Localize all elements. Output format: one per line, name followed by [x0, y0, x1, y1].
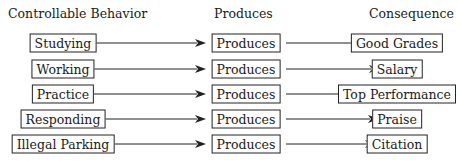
- produces-box: Produces: [212, 110, 281, 129]
- behavior-box: Working: [31, 60, 94, 79]
- consequence-box: Good Grades: [351, 34, 443, 53]
- behavior-box: Illegal Parking: [12, 135, 115, 154]
- produces-box: Produces: [212, 85, 281, 104]
- behavior-box: Responding: [21, 110, 106, 129]
- consequence-box: Top Performance: [338, 85, 456, 104]
- consequence-box: Salary: [372, 60, 423, 79]
- produces-box: Produces: [212, 34, 281, 53]
- produces-box: Produces: [212, 135, 281, 154]
- behavior-box: Practice: [32, 85, 94, 104]
- behavior-box: Studying: [30, 34, 97, 53]
- produces-box: Produces: [212, 60, 281, 79]
- consequence-box: Praise: [372, 110, 422, 129]
- consequence-box: Citation: [367, 135, 428, 154]
